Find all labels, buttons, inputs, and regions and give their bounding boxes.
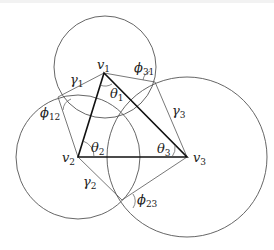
label-gamma3: γ3	[172, 103, 186, 120]
label-gamma2: γ2	[83, 174, 97, 191]
circle-pattern-diagram: v1 v2 v3 θ1 θ2 θ3 ϕ12 ϕ31 ϕ23 γ1 γ2 γ3	[0, 0, 274, 250]
label-phi12: ϕ12	[40, 105, 60, 122]
label-gamma1: γ1	[70, 72, 84, 89]
label-phi23: ϕ23	[137, 192, 158, 209]
label-theta3: θ3	[157, 141, 171, 158]
angle-arcs	[63, 71, 175, 208]
label-phi31: ϕ31	[134, 60, 154, 77]
label-v3: v3	[193, 150, 206, 167]
label-theta1: θ1	[110, 86, 124, 103]
label-theta2: θ2	[91, 140, 105, 157]
label-v1: v1	[97, 57, 110, 74]
label-v2: v2	[62, 150, 75, 167]
